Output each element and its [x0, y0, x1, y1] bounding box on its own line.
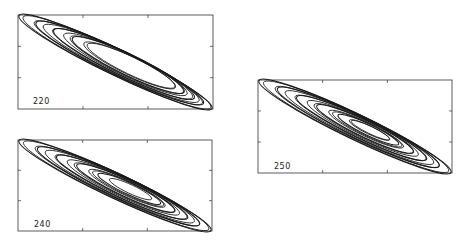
trajectory-loop	[291, 87, 431, 168]
trajectory-plot-250	[0, 0, 466, 245]
panel-label: 250	[274, 162, 291, 171]
trajectory-loop	[292, 88, 431, 169]
trajectory-loop	[313, 98, 416, 159]
panel-250: 250	[0, 0, 466, 245]
trajectory-loop	[310, 97, 417, 160]
